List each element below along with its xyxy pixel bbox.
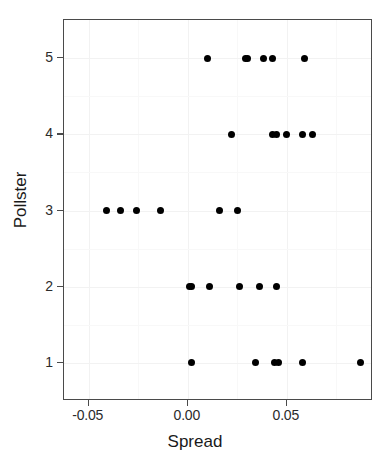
gridline-horizontal — [64, 134, 371, 135]
gridline-horizontal-minor — [64, 172, 371, 173]
data-point — [252, 359, 259, 366]
x-axis-tick-label: 0.00 — [152, 407, 222, 423]
data-point — [204, 55, 211, 62]
data-point — [269, 55, 276, 62]
data-point — [283, 131, 290, 138]
gridline-vertical — [89, 20, 90, 399]
y-axis-title: Pollster — [11, 105, 31, 295]
data-point — [273, 131, 280, 138]
data-point — [301, 55, 308, 62]
y-axis-tick-label: 1 — [23, 355, 53, 369]
data-point — [299, 359, 306, 366]
x-axis-title: Spread — [0, 432, 390, 452]
y-axis-tick — [57, 133, 63, 134]
data-point — [103, 207, 110, 214]
data-point — [188, 359, 195, 366]
y-axis-tick — [57, 362, 63, 363]
data-point — [117, 207, 124, 214]
data-point — [309, 131, 316, 138]
gridline-horizontal-minor — [64, 249, 371, 250]
gridline-vertical-minor — [336, 20, 337, 399]
data-point — [299, 131, 306, 138]
scatter-plot-figure: -0.050.000.05 12345 Spread Pollster — [0, 0, 390, 471]
x-axis-tick — [187, 400, 188, 406]
data-point — [133, 207, 140, 214]
x-axis-tick — [286, 400, 287, 406]
data-point — [228, 131, 235, 138]
gridline-horizontal-minor — [64, 96, 371, 97]
x-axis-tick-label: 0.05 — [251, 407, 321, 423]
x-axis-tick — [88, 400, 89, 406]
x-axis-tick-label: -0.05 — [53, 407, 123, 423]
y-axis-tick — [57, 57, 63, 58]
y-axis-tick — [57, 286, 63, 287]
data-point — [206, 283, 213, 290]
data-point — [256, 283, 263, 290]
y-axis-tick-label: 5 — [23, 50, 53, 64]
gridline-horizontal — [64, 287, 371, 288]
gridline-horizontal — [64, 58, 371, 59]
data-point — [188, 283, 195, 290]
gridline-horizontal-minor — [64, 325, 371, 326]
gridline-vertical — [188, 20, 189, 399]
y-axis-tick — [57, 210, 63, 211]
data-point — [244, 55, 251, 62]
gridline-horizontal — [64, 363, 371, 364]
data-point — [216, 207, 223, 214]
data-point — [234, 207, 241, 214]
data-point — [273, 283, 280, 290]
gridline-vertical — [287, 20, 288, 399]
plot-panel — [63, 19, 372, 400]
data-point — [157, 207, 164, 214]
data-point — [260, 55, 267, 62]
data-point — [357, 359, 364, 366]
data-point — [236, 283, 243, 290]
data-point — [275, 359, 282, 366]
